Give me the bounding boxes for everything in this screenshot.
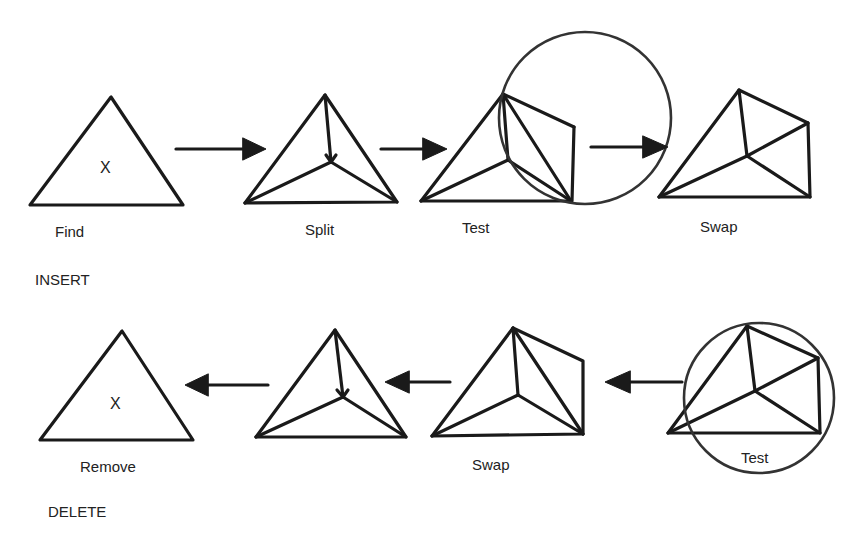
section-label-delete: DELETE (48, 503, 106, 520)
step-label-swap: Swap (700, 218, 738, 235)
step-label-test: Test (462, 219, 490, 236)
swap-triangle-delete (432, 328, 583, 436)
arrow-left-icon (185, 374, 268, 396)
split-triangle (245, 95, 397, 203)
step-label-test-delete: Test (741, 449, 769, 466)
arrow-right-icon (591, 136, 668, 158)
step-label-split: Split (305, 221, 334, 238)
step-label-find: Find (55, 223, 84, 240)
remove-triangle (40, 331, 193, 440)
delete-point-marker: X (110, 395, 121, 413)
circumcircle (499, 32, 671, 204)
test-triangle-delete (668, 326, 820, 433)
arrow-left-icon (605, 371, 682, 393)
merge-triangle (256, 330, 406, 437)
arrow-right-icon (176, 138, 266, 160)
arrow-left-icon (385, 371, 450, 393)
step-label-remove: Remove (80, 458, 136, 475)
insert-point-marker: X (100, 159, 111, 177)
arrow-right-icon (381, 138, 447, 160)
section-label-insert: INSERT (35, 271, 90, 288)
find-triangle (30, 97, 183, 205)
swap-triangle (659, 90, 810, 197)
diagram: X Find INSERT Split Test Swap X Remove D… (0, 0, 862, 543)
step-label-swap-delete: Swap (472, 456, 510, 473)
